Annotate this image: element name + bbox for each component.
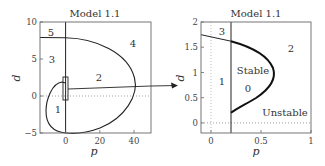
left-ytick-5: 5 [32,54,37,64]
right-region-3: 3 [219,26,225,37]
left-ylabel: d [10,74,23,81]
right-upper-boundary [201,35,231,42]
connector-line [68,86,151,89]
left-plot: Model 1.1 10 5 0 −5 0 [10,8,151,158]
left-ytick-neg5: −5 [24,128,37,138]
left-region-1: 1 [55,104,61,115]
right-region-2: 2 [288,43,294,54]
left-ytick-10: 10 [26,17,37,27]
left-region-4: 4 [130,38,136,49]
right-ylabel: d [174,74,187,81]
left-plot-title: Model 1.1 [70,8,121,19]
left-xlabel: p [90,145,97,158]
left-region-5: 5 [48,27,54,38]
right-region-0: 0 [245,83,251,94]
right-ytick-2: 2 [193,17,198,27]
right-region-stable: Stable [237,65,269,76]
right-region-1: 1 [219,76,225,87]
left-x-ticks: 0 20 40 [63,130,140,146]
left-boundary-curve [40,38,135,134]
right-ytick-0: 0 [193,118,198,128]
right-xlabel: p [252,145,259,158]
right-ytick-0-5: 0.5 [184,93,198,103]
figure: Model 1.1 10 5 0 −5 0 [0,0,325,166]
right-ytick-1-5: 1.5 [184,42,198,52]
right-xtick-1: 1 [308,136,313,146]
stable-region-boundary [231,41,274,113]
right-x-ticks: 0 0.5 1 [208,130,313,146]
left-xtick-0: 0 [63,136,68,146]
right-xtick-0: 0 [208,136,213,146]
right-ytick-1: 1 [193,68,198,78]
left-region-3: 3 [49,54,55,65]
right-region-unstable: Unstable [262,107,308,118]
left-ytick-0: 0 [32,91,37,101]
right-plot-title: Model 1.1 [231,8,282,19]
right-plot: Model 1.1 0 0.5 1 1.5 2 [174,8,314,158]
left-region-2: 2 [96,72,102,83]
left-xtick-40: 40 [129,136,140,146]
